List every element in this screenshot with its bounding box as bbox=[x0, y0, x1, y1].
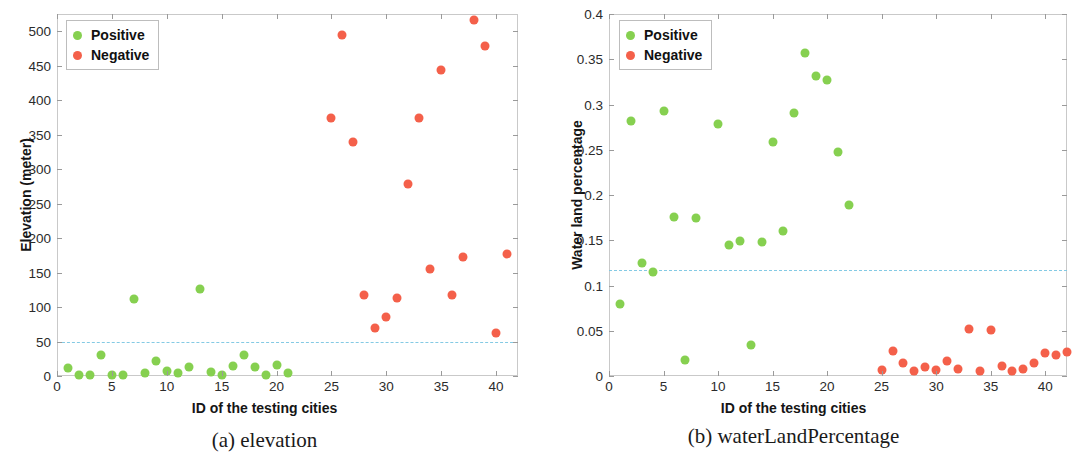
data-point-neg bbox=[921, 362, 930, 371]
data-point-pos bbox=[724, 240, 733, 249]
x-tick-top bbox=[936, 14, 937, 19]
x-tick-top bbox=[57, 14, 58, 19]
data-point-neg bbox=[426, 265, 435, 274]
data-point-neg bbox=[997, 362, 1006, 371]
legend-label-negative: Negative bbox=[91, 47, 149, 63]
data-point-neg bbox=[1063, 348, 1072, 357]
y-tick-right bbox=[1062, 14, 1067, 15]
y-tick bbox=[609, 195, 614, 196]
data-point-neg bbox=[1041, 349, 1050, 358]
y-tick-right bbox=[513, 100, 518, 101]
x-tick-label: 0 bbox=[605, 379, 613, 394]
x-tick-label: 25 bbox=[324, 379, 339, 394]
x-tick bbox=[827, 371, 828, 376]
x-tick-label: 40 bbox=[489, 379, 504, 394]
legend-elevation: Positive Negative bbox=[66, 20, 159, 70]
x-tick-label: 35 bbox=[983, 379, 998, 394]
data-point-neg bbox=[953, 364, 962, 373]
data-point-neg bbox=[1019, 364, 1028, 373]
x-tick-label: 5 bbox=[660, 379, 668, 394]
data-point-neg bbox=[1030, 359, 1039, 368]
data-point-pos bbox=[173, 369, 182, 378]
x-tick-label: 10 bbox=[711, 379, 726, 394]
x-tick-top bbox=[991, 14, 992, 19]
y-axis-title-water-land-percentage: Water land percentage bbox=[569, 14, 585, 376]
y-tick bbox=[57, 135, 62, 136]
x-tick bbox=[441, 371, 442, 376]
threshold-line-water-land-percentage bbox=[609, 270, 1067, 271]
y-tick-right bbox=[513, 238, 518, 239]
data-point-pos bbox=[714, 119, 723, 128]
data-point-pos bbox=[206, 367, 215, 376]
legend-item-positive: Positive bbox=[73, 25, 149, 45]
data-point-neg bbox=[382, 312, 391, 321]
y-tick-right bbox=[1062, 376, 1067, 377]
x-tick-top bbox=[827, 14, 828, 19]
data-point-pos bbox=[823, 76, 832, 85]
x-tick bbox=[664, 371, 665, 376]
x-tick-label: 15 bbox=[214, 379, 229, 394]
data-point-pos bbox=[681, 355, 690, 364]
data-point-pos bbox=[228, 362, 237, 371]
x-tick-top bbox=[718, 14, 719, 19]
data-point-neg bbox=[1008, 367, 1017, 376]
x-tick bbox=[277, 371, 278, 376]
data-point-pos bbox=[272, 360, 281, 369]
x-tick-top bbox=[331, 14, 332, 19]
data-point-pos bbox=[746, 341, 755, 350]
data-point-neg bbox=[975, 366, 984, 375]
y-tick-right bbox=[513, 342, 518, 343]
data-point-pos bbox=[648, 267, 657, 276]
legend-label-negative: Negative bbox=[644, 47, 702, 63]
data-point-neg bbox=[349, 137, 358, 146]
panel-water-land-percentage: 051015202530354000.050.10.150.20.250.30.… bbox=[529, 0, 1058, 466]
x-tick-top bbox=[496, 14, 497, 19]
legend-item-negative: Negative bbox=[73, 45, 149, 65]
data-point-neg bbox=[503, 249, 512, 258]
data-point-pos bbox=[195, 285, 204, 294]
data-point-pos bbox=[184, 363, 193, 372]
data-point-pos bbox=[140, 368, 149, 377]
x-tick bbox=[718, 371, 719, 376]
y-tick-right bbox=[1062, 240, 1067, 241]
x-tick-label: 35 bbox=[434, 379, 449, 394]
x-tick-label: 10 bbox=[159, 379, 174, 394]
data-point-pos bbox=[801, 48, 810, 57]
data-point-pos bbox=[659, 106, 668, 115]
data-point-neg bbox=[327, 114, 336, 123]
data-point-neg bbox=[1052, 351, 1061, 360]
data-point-pos bbox=[129, 294, 138, 303]
x-tick-label: 40 bbox=[1038, 379, 1053, 394]
y-tick-right bbox=[1062, 195, 1067, 196]
x-tick-label: 30 bbox=[379, 379, 394, 394]
plot-stage-b: 051015202530354000.050.10.150.20.250.30.… bbox=[529, 0, 1058, 420]
data-point-pos bbox=[239, 351, 248, 360]
caption-elevation: (a) elevation bbox=[0, 428, 529, 453]
y-tick-right bbox=[513, 31, 518, 32]
data-point-neg bbox=[448, 290, 457, 299]
x-axis-title-water-land-percentage: ID of the testing cities bbox=[529, 400, 1058, 416]
x-tick-top bbox=[882, 14, 883, 19]
y-tick-right bbox=[1062, 105, 1067, 106]
caption-water-land-percentage: (b) waterLandPercentage bbox=[529, 424, 1058, 449]
x-tick bbox=[496, 371, 497, 376]
x-tick-label: 20 bbox=[820, 379, 835, 394]
y-axis-title-elevation: Elevation (meter) bbox=[18, 14, 34, 376]
data-point-neg bbox=[415, 114, 424, 123]
legend-item-positive: Positive bbox=[626, 25, 702, 45]
data-point-pos bbox=[812, 71, 821, 80]
y-tick bbox=[609, 150, 614, 151]
legend-marker-positive-icon bbox=[73, 31, 82, 40]
y-tick bbox=[609, 14, 614, 15]
y-tick-right bbox=[1062, 331, 1067, 332]
y-tick bbox=[609, 105, 614, 106]
data-point-neg bbox=[459, 252, 468, 261]
data-point-pos bbox=[74, 371, 83, 380]
data-point-neg bbox=[437, 65, 446, 74]
x-tick-label: 20 bbox=[269, 379, 284, 394]
x-tick-label: 5 bbox=[108, 379, 116, 394]
y-tick bbox=[609, 331, 614, 332]
data-point-neg bbox=[964, 324, 973, 333]
y-tick bbox=[609, 376, 614, 377]
data-point-neg bbox=[943, 356, 952, 365]
